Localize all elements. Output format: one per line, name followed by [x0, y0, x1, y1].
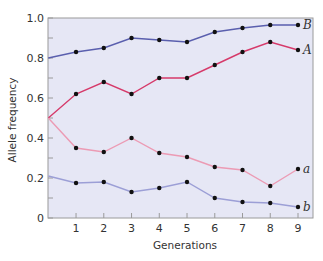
allele-frequency-chart: 00.20.40.60.81.0 123456789 BAab Generati…: [0, 0, 323, 261]
data-point: [74, 146, 78, 150]
data-point: [102, 180, 106, 184]
series-label: A: [302, 43, 312, 57]
x-tick-label: 7: [239, 222, 246, 235]
data-point: [268, 184, 272, 188]
y-tick-label: 0.4: [27, 132, 45, 145]
data-point: [185, 180, 189, 184]
data-point: [268, 40, 272, 44]
data-point: [213, 30, 217, 34]
x-tick-label: 9: [295, 222, 302, 235]
x-tick-label: 4: [156, 222, 163, 235]
data-point: [185, 155, 189, 159]
data-point: [213, 196, 217, 200]
data-point: [213, 165, 217, 169]
data-point: [240, 200, 244, 204]
data-point: [74, 50, 78, 54]
y-tick-label: 1.0: [27, 12, 45, 25]
y-tick-label: 0: [37, 212, 44, 225]
data-point: [129, 136, 133, 140]
series-label: a: [303, 162, 310, 176]
x-tick-label: 6: [211, 222, 218, 235]
x-tick-label: 3: [128, 222, 135, 235]
data-point: [74, 181, 78, 185]
data-point: [157, 38, 161, 42]
data-point: [296, 205, 300, 209]
series-label: B: [302, 18, 312, 32]
y-axis-title: Allele frequency: [6, 78, 18, 163]
data-point: [185, 40, 189, 44]
data-point: [268, 23, 272, 27]
x-tick-label: 8: [267, 222, 274, 235]
series-label: b: [303, 200, 311, 214]
y-tick-label: 0.2: [27, 172, 45, 185]
data-point: [185, 76, 189, 80]
data-point: [296, 23, 300, 27]
data-point: [102, 46, 106, 50]
x-tick-label: 1: [73, 222, 80, 235]
data-point: [129, 36, 133, 40]
data-point: [157, 186, 161, 190]
y-tick-label: 0.8: [27, 52, 45, 65]
data-point: [157, 76, 161, 80]
y-tick-label: 0.6: [27, 92, 45, 105]
data-point: [74, 92, 78, 96]
data-point: [213, 63, 217, 67]
data-point: [102, 150, 106, 154]
data-point: [240, 50, 244, 54]
data-point: [296, 48, 300, 52]
data-point: [129, 92, 133, 96]
data-point: [268, 201, 272, 205]
data-point: [102, 80, 106, 84]
x-tick-label: 5: [184, 222, 191, 235]
data-point: [240, 168, 244, 172]
x-tick-label: 2: [100, 222, 107, 235]
x-axis-title: Generations: [153, 239, 217, 251]
data-point: [240, 26, 244, 30]
data-point: [129, 190, 133, 194]
data-point: [296, 167, 300, 171]
data-point: [157, 151, 161, 155]
plot-area: [48, 18, 313, 218]
